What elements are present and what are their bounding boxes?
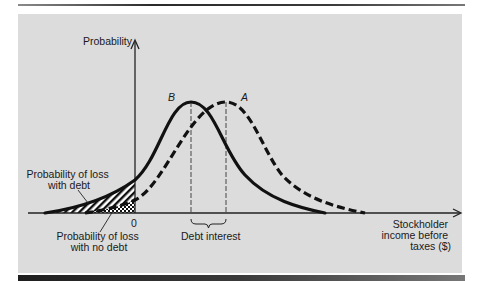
probability-diagram: Probability B A 0 Debt interest Probabil… <box>0 0 483 281</box>
y-axis-label: Probability <box>83 35 133 47</box>
loss-with-debt-pointer <box>78 190 88 203</box>
loss-with-debt-line-2: with debt <box>47 179 90 191</box>
curve-a-label: A <box>240 91 248 103</box>
loss-with-debt-label: Probability of loss with debt <box>26 168 111 191</box>
loss-no-debt-pointer <box>100 211 113 232</box>
curve-b-with-debt <box>45 102 325 213</box>
origin-label: 0 <box>131 217 137 229</box>
x-axis-label: Stockholder income before taxes ($) <box>382 218 451 252</box>
loss-no-debt-label: Probability of loss with no debt <box>56 230 141 253</box>
debt-interest-brace-icon <box>191 219 226 228</box>
x-axis-label-line-3: taxes ($) <box>410 240 451 252</box>
curve-b-label: B <box>168 91 175 103</box>
loss-no-debt-line-2: with no debt <box>70 241 128 253</box>
debt-interest-label: Debt interest <box>181 230 241 242</box>
